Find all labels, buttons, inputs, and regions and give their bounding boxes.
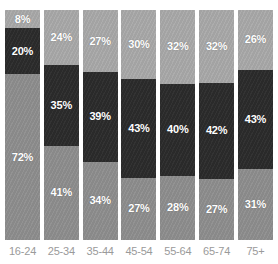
bar-segment-top[interactable]: 30% — [121, 10, 156, 79]
chart-title — [0, 0, 278, 2]
segment-value-label: 27% — [206, 204, 227, 215]
segment-value-label: 30% — [128, 39, 149, 50]
bar-segment-bottom[interactable]: 72% — [5, 74, 40, 240]
bar-column-75-plus[interactable]: 26% 43% 31% — [238, 10, 273, 240]
segment-value-label: 32% — [167, 41, 188, 52]
bar-segment-middle[interactable]: 43% — [238, 70, 273, 169]
segment-value-label: 42% — [206, 125, 227, 136]
segment-value-label: 43% — [128, 123, 149, 134]
bar-column-55-64[interactable]: 32% 40% 28% — [160, 10, 195, 240]
segment-value-label: 39% — [89, 111, 110, 122]
segment-value-label: 20% — [12, 46, 33, 57]
bar-segment-top[interactable]: 26% — [238, 10, 273, 70]
bar-segment-middle[interactable]: 40% — [160, 84, 195, 176]
x-axis-tick-25-34: 25-34 — [44, 243, 79, 261]
segment-value-label: 32% — [206, 41, 227, 52]
bar-segment-top[interactable]: 27% — [83, 10, 118, 72]
segment-value-label: 43% — [245, 114, 266, 125]
bar-column-45-54[interactable]: 30% 43% 27% — [121, 10, 156, 240]
bar-column-16-24[interactable]: 8% 20% 72% — [5, 10, 40, 240]
x-axis-tick-45-54: 45-54 — [121, 243, 156, 261]
x-axis-tick-75-plus: 75+ — [238, 243, 273, 261]
bar-segment-top[interactable]: 32% — [199, 10, 234, 83]
bar-segment-middle[interactable]: 39% — [83, 72, 118, 162]
segment-value-label: 31% — [245, 199, 266, 210]
x-axis-tick-55-64: 55-64 — [160, 243, 195, 261]
plot-area: 8% 20% 72% 24% 35% 41% 27% — [0, 10, 278, 240]
bar-segment-top[interactable]: 24% — [44, 10, 79, 65]
segment-value-label: 8% — [15, 14, 31, 25]
stacked-bar-chart: 8% 20% 72% 24% 35% 41% 27% — [0, 0, 278, 264]
segment-value-label: 28% — [167, 202, 188, 213]
bar-segment-middle[interactable]: 43% — [121, 79, 156, 178]
segment-value-label: 24% — [51, 32, 72, 43]
segment-value-label: 27% — [128, 203, 149, 214]
x-axis-tick-65-74: 65-74 — [199, 243, 234, 261]
segment-value-label: 41% — [51, 187, 72, 198]
bar-segment-middle[interactable]: 35% — [44, 65, 79, 146]
segment-value-label: 34% — [89, 195, 110, 206]
bar-segment-bottom[interactable]: 41% — [44, 146, 79, 240]
bar-column-25-34[interactable]: 24% 35% 41% — [44, 10, 79, 240]
segment-value-label: 26% — [245, 34, 266, 45]
bar-segment-bottom[interactable]: 28% — [160, 176, 195, 240]
segment-value-label: 40% — [167, 124, 188, 135]
bar-segment-top[interactable]: 32% — [160, 10, 195, 84]
bar-column-65-74[interactable]: 32% 42% 27% — [199, 10, 234, 240]
x-axis-tick-35-44: 35-44 — [83, 243, 118, 261]
x-axis-tick-16-24: 16-24 — [5, 243, 40, 261]
bar-segment-bottom[interactable]: 27% — [121, 178, 156, 240]
segment-value-label: 35% — [51, 100, 72, 111]
bar-segment-middle[interactable]: 42% — [199, 83, 234, 179]
bar-segment-middle[interactable]: 20% — [5, 28, 40, 74]
bar-segment-top[interactable]: 8% — [5, 10, 40, 28]
segment-value-label: 72% — [12, 152, 33, 163]
x-axis-tick-labels: 16-24 25-34 35-44 45-54 55-64 65-74 75+ — [0, 243, 278, 261]
bar-segment-bottom[interactable]: 34% — [83, 162, 118, 240]
segment-value-label: 27% — [89, 36, 110, 47]
bar-column-35-44[interactable]: 27% 39% 34% — [83, 10, 118, 240]
bar-segment-bottom[interactable]: 31% — [238, 169, 273, 240]
bar-segment-bottom[interactable]: 27% — [199, 179, 234, 240]
